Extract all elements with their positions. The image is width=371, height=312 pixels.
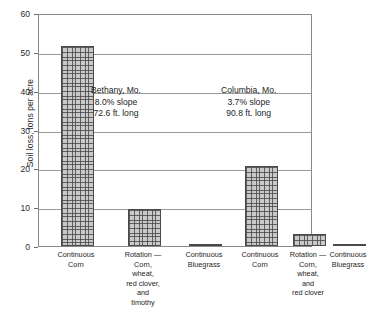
x-axis-label-1-l3: wheat, xyxy=(112,269,174,279)
annotation-bethany-line3: 72.6 ft. long xyxy=(91,108,141,120)
y-tick-label-10: 10 xyxy=(0,203,30,213)
x-axis-label-1-l6: timothy xyxy=(112,298,174,308)
y-axis-title: Soil loss, tons per acre xyxy=(25,38,35,208)
x-axis-label-4-l5: red clover xyxy=(277,288,339,298)
x-axis-label-1-l4: red clover, xyxy=(112,279,174,289)
y-tick-label-0: 0 xyxy=(0,242,30,252)
annotation-bethany-line1: Bethany, Mo. xyxy=(91,85,141,97)
x-axis-label-1-l5: and xyxy=(112,288,174,298)
annotation-bethany: Bethany, Mo. 8.0% slope 72.6 ft. long xyxy=(91,85,141,120)
x-axis-label-5-l2: Bluegrass xyxy=(317,260,371,270)
x-axis-label-0-l2: Corn xyxy=(45,260,107,270)
bar-3 xyxy=(245,166,278,246)
x-axis-label-1: Rotation —Corn,wheat,red clover,andtimot… xyxy=(112,250,174,308)
y-tick-label-30: 30 xyxy=(0,126,30,136)
y-tick-label-50: 50 xyxy=(0,48,30,58)
y-tick-mark-0 xyxy=(34,247,38,248)
x-axis-label-2-l2: Bluegrass xyxy=(173,260,235,270)
bar-5 xyxy=(333,244,366,247)
x-axis-label-1-l2: Corn, xyxy=(112,260,174,270)
bar-0 xyxy=(61,46,94,246)
bar-1 xyxy=(128,209,161,246)
x-axis-label-2: ContinuousBluegrass xyxy=(173,250,235,269)
plot-area: Bethany, Mo. 8.0% slope 72.6 ft. long Co… xyxy=(38,14,312,247)
y-tick-label-60: 60 xyxy=(0,9,30,19)
y-tick-label-20: 20 xyxy=(0,164,30,174)
y-tick-label-40: 40 xyxy=(0,87,30,97)
bar-4 xyxy=(293,234,326,246)
x-axis-label-5: ContinuousBluegrass xyxy=(317,250,371,269)
x-axis-label-5-l1: Continuous xyxy=(317,250,371,260)
annotation-columbia: Columbia, Mo. 3.7% slope 90.8 ft. long xyxy=(221,85,276,120)
annotation-columbia-line1: Columbia, Mo. xyxy=(221,85,276,97)
x-axis-label-2-l1: Continuous xyxy=(173,250,235,260)
bar-2 xyxy=(189,244,222,247)
annotation-columbia-line2: 3.7% slope xyxy=(221,97,276,109)
annotation-bethany-line2: 8.0% slope xyxy=(91,97,141,109)
x-axis-label-1-l1: Rotation — xyxy=(112,250,174,260)
x-axis-label-0-l1: Continuous xyxy=(45,250,107,260)
x-axis-label-0: ContinuousCorn xyxy=(45,250,107,269)
x-axis-label-4-l4: and xyxy=(277,279,339,289)
annotation-columbia-line3: 90.8 ft. long xyxy=(221,108,276,120)
x-axis-label-4-l3: wheat, xyxy=(277,269,339,279)
